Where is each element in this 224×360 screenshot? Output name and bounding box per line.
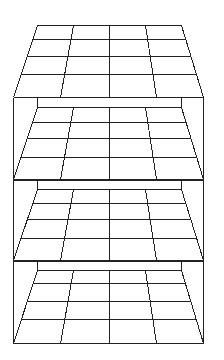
grid-right-edge <box>182 26 204 98</box>
layer-3 <box>14 181 204 261</box>
stacked-grid-diagram <box>0 0 224 360</box>
grid-left-edge <box>14 271 38 344</box>
grid-left-edge <box>14 26 38 98</box>
layer-1 <box>14 26 204 98</box>
grid-left-edge <box>14 108 38 180</box>
layer-2 <box>14 98 204 180</box>
grid-column-line <box>146 190 157 261</box>
grid-column-line <box>61 108 74 180</box>
grid-column-line <box>61 190 74 261</box>
grid-left-edge <box>14 190 38 261</box>
grid-right-edge <box>182 190 204 261</box>
diagram-canvas <box>0 0 224 360</box>
grid-column-line <box>146 26 157 98</box>
grid-column-line <box>146 108 157 180</box>
grid-right-edge <box>182 108 204 180</box>
box-frame <box>14 98 204 344</box>
grid-column-line <box>61 26 74 98</box>
layer-4 <box>14 262 204 344</box>
grid-right-edge <box>182 271 204 344</box>
grid-column-line <box>61 271 74 344</box>
grid-column-line <box>146 271 157 344</box>
